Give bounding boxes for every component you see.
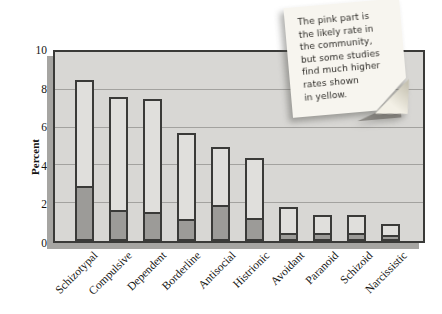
x-tick-slot: Avoidant <box>271 247 305 313</box>
bar-total-yellow <box>109 97 128 241</box>
x-tick-slot: Narcissistic <box>375 247 409 313</box>
y-tick-label: 0 <box>41 237 47 249</box>
bar-community-pink <box>143 212 162 241</box>
bar-slot <box>203 52 237 241</box>
bar-community-pink <box>109 210 128 241</box>
bar-total-yellow <box>279 207 298 241</box>
bar-community-pink <box>313 233 332 241</box>
bar-slot <box>135 52 169 241</box>
x-tick-slot: Paranoid <box>306 247 340 313</box>
bar-total-yellow <box>245 158 264 241</box>
bar-community-pink <box>347 233 366 241</box>
sticky-note: The pink part is the likely rate in the … <box>283 0 408 118</box>
bar-total-yellow <box>347 215 366 241</box>
y-tick-label: 8 <box>41 83 47 95</box>
bar-slot <box>169 52 203 241</box>
x-tick-label: Histrionic <box>231 249 272 290</box>
x-tick-label: Paranoid <box>303 249 340 286</box>
x-tick-label: Antisocial <box>195 249 237 291</box>
y-tick-label: 6 <box>41 121 47 133</box>
y-axis-ticks: 10 8 6 4 2 0 <box>0 50 47 243</box>
y-tick-label: 2 <box>41 198 47 210</box>
y-tick-label: 10 <box>36 44 48 56</box>
bar-total-yellow <box>381 224 400 241</box>
bar-slot <box>67 52 101 241</box>
bar-community-pink <box>177 219 196 241</box>
bar-community-pink <box>279 233 298 241</box>
bar-total-yellow <box>177 133 196 241</box>
bar-total-yellow <box>313 215 332 241</box>
bar-total-yellow <box>75 80 94 241</box>
x-tick-label: Avoidant <box>268 249 306 287</box>
bar-slot <box>237 52 271 241</box>
x-axis-labels: Schizotypal Compulsive Dependent Borderl… <box>53 247 425 313</box>
bar-total-yellow <box>211 147 230 242</box>
y-tick-label: 4 <box>41 160 47 172</box>
bar-total-yellow <box>143 99 162 241</box>
bar-slot <box>101 52 135 241</box>
stacked-bar-chart-figure: Percent 10 8 6 4 2 0 Schizotypal Compuls… <box>0 0 442 314</box>
bar-community-pink <box>75 186 94 241</box>
bar-community-pink <box>211 205 230 241</box>
sticky-note-text: The pink part is the likely rate in the … <box>297 8 399 104</box>
x-tick-slot: Histrionic <box>237 247 271 313</box>
bar-community-pink <box>381 235 400 241</box>
bar-community-pink <box>245 218 264 241</box>
